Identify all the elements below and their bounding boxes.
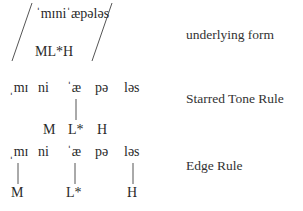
syllable-ae: ˈæ <box>67 81 81 95</box>
syllable-pe: pə <box>95 145 108 159</box>
label-starred-tone-rule: Starred Tone Rule <box>186 92 284 106</box>
tone-lstar: L* <box>68 123 84 137</box>
tone-h: H <box>97 123 107 137</box>
left-slash <box>12 3 32 61</box>
syllable-mi: ˌmɪ <box>9 81 28 95</box>
syllable-les: ləs <box>124 145 140 159</box>
syllable-ni: ni <box>38 81 49 95</box>
label-edge-rule: Edge Rule <box>186 159 243 173</box>
underlying-form-text: ˈmɪniˈæpələs <box>36 7 109 21</box>
tone-lstar: L* <box>66 186 82 200</box>
tone-h: H <box>127 186 137 200</box>
underlying-tones: ML*H <box>35 45 73 59</box>
syllable-ae: ˈæ <box>67 145 81 159</box>
tone-m: M <box>43 123 55 137</box>
syllable-mi: ˌmɪ <box>9 145 28 159</box>
tone-m: M <box>11 186 23 200</box>
syllable-ni: ni <box>38 145 49 159</box>
syllable-les: ləs <box>124 81 140 95</box>
syllable-pe: pə <box>95 81 108 95</box>
label-underlying-form: underlying form <box>186 28 274 42</box>
